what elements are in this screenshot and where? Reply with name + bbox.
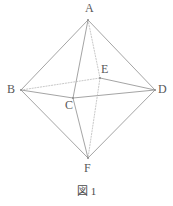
- vertex-label-b: B: [7, 83, 15, 95]
- edge-a-e: [88, 20, 100, 78]
- vertex-dot-group: [20, 19, 156, 159]
- vertex-point-d: [154, 89, 156, 91]
- edge-a-c: [73, 20, 88, 98]
- vertex-label-d: D: [158, 83, 167, 95]
- vertex-point-a: [87, 19, 89, 21]
- edge-b-c: [21, 90, 73, 98]
- vertex-point-b: [20, 89, 22, 91]
- octahedron-diagram: [0, 0, 173, 206]
- vertex-label-a: A: [85, 2, 94, 14]
- edge-b-f: [21, 90, 88, 158]
- edge-e-f: [88, 78, 100, 158]
- edge-group: [21, 20, 155, 158]
- figure-container: ABCDEF 図1: [0, 0, 173, 206]
- edge-c-d: [73, 90, 155, 98]
- vertex-label-f: F: [84, 162, 91, 174]
- edge-a-d: [88, 20, 155, 90]
- caption-figure-word: 図: [77, 185, 88, 198]
- edge-e-d: [100, 78, 155, 90]
- vertex-label-e: E: [101, 63, 108, 75]
- figure-caption: 図1: [0, 184, 173, 199]
- vertex-point-f: [87, 157, 89, 159]
- edge-c-f: [73, 98, 88, 158]
- caption-figure-number: 1: [91, 185, 97, 197]
- vertex-label-c: C: [65, 99, 73, 111]
- edge-a-b: [21, 20, 88, 90]
- vertex-point-e: [99, 77, 101, 79]
- edge-d-f: [88, 90, 155, 158]
- edge-b-e: [21, 78, 100, 90]
